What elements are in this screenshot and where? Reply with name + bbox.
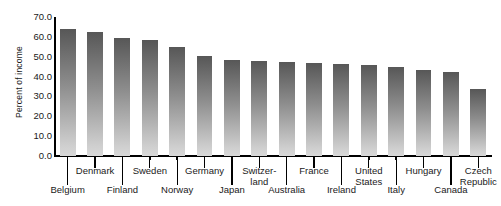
bar <box>142 40 158 156</box>
bar <box>197 56 213 156</box>
y-tick-label: 10.0 <box>16 131 52 141</box>
y-tick-label: 70.0 <box>16 12 52 22</box>
bar <box>470 89 486 157</box>
bar <box>361 65 377 156</box>
bar <box>279 62 295 156</box>
bar <box>60 29 76 156</box>
y-tick-label: 40.0 <box>16 72 52 82</box>
plot-area <box>54 17 492 156</box>
x-axis-category-label: Czech Republic <box>441 166 501 187</box>
bar <box>416 70 432 156</box>
y-tick-label: 30.0 <box>16 91 52 101</box>
y-tick-label: 0.0 <box>16 151 52 161</box>
bar <box>251 61 267 156</box>
bar <box>114 38 130 156</box>
y-axis-tick-labels: 70.060.050.040.030.020.010.00.0 <box>16 0 52 206</box>
bar <box>443 72 459 156</box>
bar <box>224 60 240 156</box>
bar <box>388 67 404 156</box>
bar <box>333 64 349 156</box>
y-tick-label: 20.0 <box>16 111 52 121</box>
bar <box>306 63 322 156</box>
y-tick-label: 60.0 <box>16 32 52 42</box>
y-tick-label: 50.0 <box>16 52 52 62</box>
bar <box>169 47 185 156</box>
bar <box>87 32 103 156</box>
